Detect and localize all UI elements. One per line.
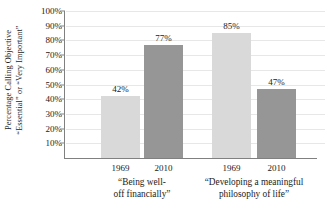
x-axis-line [64, 158, 317, 159]
bar-chart: Percentage Calling Objective “Essential”… [0, 0, 327, 216]
y-axis-tick-mark [60, 40, 65, 41]
gridline [66, 85, 325, 86]
category-labels: “Being well-off financially”“Developing … [66, 177, 327, 213]
bar-value-label: 47% [268, 78, 285, 87]
x-axis-tick-label: 2010 [155, 163, 173, 173]
y-axis-tick-mark [60, 143, 65, 144]
x-axis-tick-label: 1969 [112, 163, 130, 173]
category-label-line: off financially” [114, 189, 171, 201]
bar: 85% [212, 33, 251, 158]
y-axis-label: Percentage Calling Objective “Essential”… [0, 0, 28, 160]
y-axis-tick-mark [60, 84, 65, 85]
y-axis-tick-label: 60% [26, 65, 62, 74]
x-axis-tick-label: 1969 [223, 163, 241, 173]
y-axis-tick-mark [60, 69, 65, 70]
gridline [66, 11, 325, 12]
y-axis-tick-label: 70% [26, 51, 62, 60]
category-label-line: “Developing a meaningful [205, 177, 304, 189]
y-axis-tick-mark [60, 11, 65, 12]
x-axis-tick-label: 2010 [268, 163, 286, 173]
category-label: “Being well-off financially” [114, 177, 171, 200]
bar-value-label: 42% [112, 85, 129, 94]
bar-value-label: 85% [223, 22, 240, 31]
y-axis-tick-label: 20% [26, 124, 62, 133]
y-axis-tick-label: 10% [26, 139, 62, 148]
bar: 77% [144, 45, 183, 158]
y-axis-label-line-2: “Essential” or “Very Important” [14, 25, 25, 134]
y-axis-tick-mark [60, 113, 65, 114]
y-axis-tick-labels: 100%90%80%70%60%50%40%30%20%10% [26, 6, 62, 158]
plot-area: 42%77%85%47% [66, 11, 325, 158]
y-axis-tick-mark [60, 55, 65, 56]
y-axis-tick-label: 100% [26, 7, 62, 16]
y-axis-tick-label: 90% [26, 21, 62, 30]
gridline [66, 55, 325, 56]
bar: 47% [257, 89, 296, 158]
gridline [66, 40, 325, 41]
y-axis-tick-label: 50% [26, 80, 62, 89]
y-axis-tick-mark [60, 128, 65, 129]
gridline [66, 26, 325, 27]
y-axis-tick-mark [60, 99, 65, 100]
y-axis-tick-label: 80% [26, 36, 62, 45]
y-axis-tick-label: 30% [26, 109, 62, 118]
gridline [66, 70, 325, 71]
y-axis-tick-mark [60, 25, 65, 26]
x-axis-tick-labels: 1969201019692010 [66, 163, 325, 175]
y-axis-label-line-1: Percentage Calling Objective [4, 25, 15, 134]
category-label-line: “Being well- [114, 177, 171, 189]
category-label-line: philosophy of life” [205, 189, 304, 201]
y-axis-tick-label: 40% [26, 95, 62, 104]
bar-value-label: 77% [155, 34, 172, 43]
category-label: “Developing a meaningfulphilosophy of li… [205, 177, 304, 200]
bar: 42% [101, 96, 140, 158]
